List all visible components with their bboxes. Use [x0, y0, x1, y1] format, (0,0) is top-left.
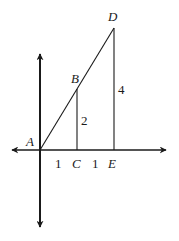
point-label-D: D [107, 9, 118, 24]
point-label-B: B [71, 71, 79, 86]
length-label-AC: 1 [55, 156, 62, 171]
point-label-E: E [107, 156, 116, 171]
point-label-A: A [25, 134, 34, 149]
point-label-C: C [72, 156, 81, 171]
length-label-CE: 1 [92, 156, 99, 171]
length-label-DE: 4 [118, 82, 125, 97]
length-label-BC: 2 [81, 113, 88, 128]
similar-triangles-diagram: D B A C E 2 4 1 1 [0, 0, 179, 241]
